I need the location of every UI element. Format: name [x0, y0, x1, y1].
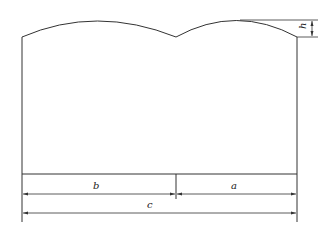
label-h: h	[297, 23, 308, 29]
label-c: c	[147, 199, 153, 210]
label-a: a	[231, 180, 237, 191]
label-b: b	[93, 180, 99, 191]
part-outline	[22, 21, 297, 223]
diagram-canvas: h b a c	[0, 0, 334, 241]
arched-top-edge	[22, 21, 297, 38]
